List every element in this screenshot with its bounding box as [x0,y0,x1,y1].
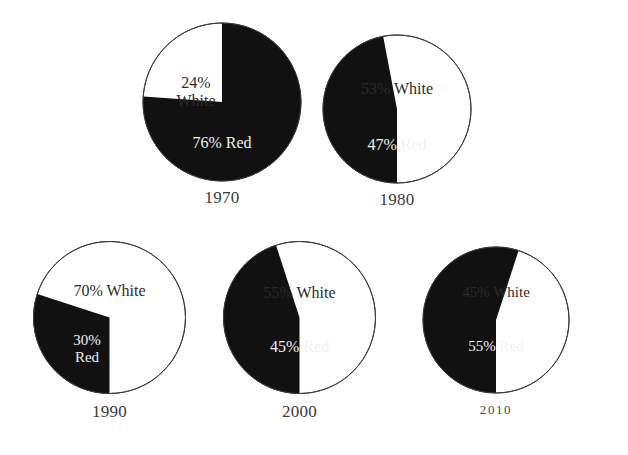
pie-chart-1970: 24% White76% Red1970 [142,22,302,216]
year-label-1990: 1990 [32,402,187,422]
pie-chart-1980: 53% White47% Red1980 [322,34,472,218]
year-label-1970: 1970 [142,188,302,208]
pie-slice-red-1980 [323,36,397,183]
pie-graphic-1970 [142,22,302,182]
pie-graphic-2000 [222,240,377,395]
year-label-1980: 1980 [322,190,472,210]
pie-chart-sheet: 24% White76% Red197053% White47% Red1980… [0,0,628,455]
pie-chart-1990: 70% White30% Red1990 [32,240,187,429]
pie-chart-2000: 55% White45% Red2000 [222,240,377,429]
pie-graphic-2010 [422,246,570,394]
year-label-2000: 2000 [222,402,377,422]
pie-graphic-1990 [32,240,187,395]
pie-graphic-1980 [322,34,472,184]
year-label-2010: 2010 [422,402,570,418]
pie-chart-2010: 45% White55% Red2010 [422,246,570,428]
